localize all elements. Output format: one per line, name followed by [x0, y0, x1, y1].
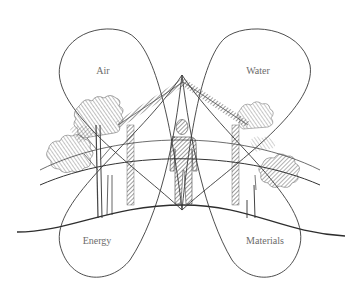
diagram-canvas: Air Water Energy Materials [0, 0, 355, 295]
label-water: Water [246, 65, 270, 76]
loop-energy [59, 75, 182, 277]
label-energy: Energy [83, 235, 112, 246]
label-air: Air [96, 65, 109, 76]
label-materials: Materials [246, 235, 284, 246]
trees-right [238, 102, 300, 218]
